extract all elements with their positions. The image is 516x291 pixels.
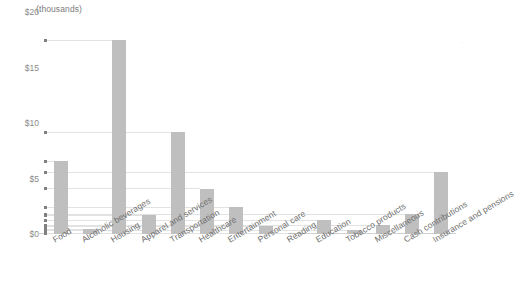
plot-area — [46, 12, 456, 234]
gridline-marker — [44, 171, 47, 174]
gridline-marker — [44, 206, 47, 209]
gridline-marker — [44, 39, 47, 42]
gridline-marker — [44, 224, 47, 227]
gridline-leader — [46, 40, 112, 41]
y-tick-label: $15 — [25, 63, 39, 73]
gridline-marker — [44, 131, 47, 134]
bar[interactable] — [54, 161, 68, 234]
y-tick-label: $10 — [25, 118, 39, 128]
gridline-marker — [44, 219, 47, 222]
y-tick-label: $0 — [30, 229, 39, 239]
gridline-marker — [44, 160, 47, 163]
gridline-leader — [46, 161, 54, 162]
y-axis: $0$5$10$15$20 — [0, 0, 46, 246]
y-tick-label: $5 — [30, 174, 39, 184]
gridline-marker — [44, 229, 47, 232]
x-axis-labels: FoodAlcoholic beveragesHousingApparel an… — [46, 236, 470, 291]
gridline-leader — [46, 214, 405, 215]
gridline-leader — [46, 132, 171, 133]
bar[interactable] — [112, 40, 126, 234]
edge-artifact: ' — [461, 42, 464, 47]
gridline-leader — [46, 172, 434, 173]
gridline-marker — [44, 187, 47, 190]
y-tick-label: $20 — [25, 7, 39, 17]
gridline-marker — [44, 213, 47, 216]
